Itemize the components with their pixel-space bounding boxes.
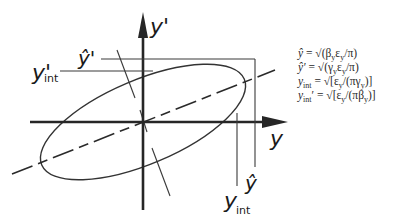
phase-space-diagram: y' y ŷ' y' int ŷ y int	[0, 0, 412, 223]
svg-text:int: int	[236, 204, 251, 217]
svg-text:int: int	[44, 72, 59, 85]
y-axis-label: y	[269, 126, 284, 151]
minor-axis-lower	[152, 148, 170, 196]
equation-yint-prime: yint′ = √[εy/(πβy)]	[298, 89, 376, 106]
yhat-label: ŷ	[244, 171, 258, 195]
yprime-axis-label: y'	[149, 14, 169, 39]
minor-axis-upper	[117, 50, 135, 98]
yprime-axis-arrowhead	[138, 12, 148, 38]
yint-prime-label: y' int	[31, 60, 59, 85]
yhat-prime-label: ŷ'	[77, 46, 95, 70]
